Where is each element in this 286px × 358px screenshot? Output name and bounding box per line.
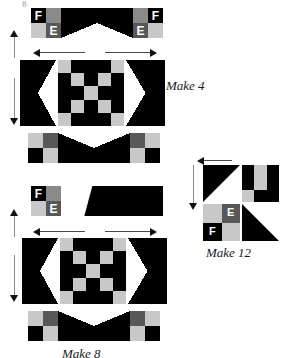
flying-geese-left xyxy=(126,60,165,126)
patch-light-gray xyxy=(203,204,222,223)
checker-cell xyxy=(111,113,124,126)
patch-dark-gray xyxy=(43,133,58,148)
checker-cell xyxy=(98,100,111,113)
nine-patch-cell xyxy=(254,177,266,189)
patch-light-gray xyxy=(148,23,163,38)
patch-medium-gray xyxy=(133,8,148,23)
checker-cell xyxy=(100,278,113,291)
patch-light-gray xyxy=(43,148,58,163)
patch-light-gray xyxy=(43,326,58,341)
half-square-triangle xyxy=(203,165,240,202)
patch-light-gray xyxy=(130,148,145,163)
block-make-8: F E xyxy=(0,183,180,358)
make8-center-row xyxy=(22,238,167,304)
make4-top-sashing-strip: F E F E xyxy=(31,8,163,38)
checker-cell xyxy=(60,238,73,251)
patch-black xyxy=(145,148,160,163)
patch-light-gray xyxy=(28,311,43,326)
checker-cell xyxy=(111,60,124,73)
make4-bottom-sashing-strip xyxy=(28,133,160,163)
patch-light-gray xyxy=(31,201,46,216)
checker-cell xyxy=(58,60,71,73)
checker-cell xyxy=(60,291,73,304)
flying-geese-left xyxy=(128,238,167,304)
checker-cell xyxy=(113,291,126,304)
patch-light-gray xyxy=(130,326,145,341)
caption-make-4: Make 4 xyxy=(166,78,205,94)
patch-light-gray xyxy=(145,311,160,326)
flying-geese-up xyxy=(58,311,130,341)
checkerboard-5x5 xyxy=(58,60,124,126)
patch-black xyxy=(28,148,43,163)
label-f: F xyxy=(203,226,222,237)
checkerboard-5x5 xyxy=(60,238,126,304)
checker-cell xyxy=(71,73,84,86)
make8-bottom-sashing-strip xyxy=(28,311,160,341)
checker-cell xyxy=(86,264,99,277)
make8-top-sashing-strip: F E xyxy=(31,186,163,216)
half-square-triangle xyxy=(242,204,279,241)
checker-cell xyxy=(73,278,86,291)
checker-cell xyxy=(98,73,111,86)
flying-geese-right xyxy=(20,60,56,126)
patch-light-gray xyxy=(28,133,43,148)
patch-light-gray xyxy=(222,223,241,242)
flying-geese-down xyxy=(61,8,133,38)
checker-cell xyxy=(113,238,126,251)
nine-patch xyxy=(242,165,279,202)
label-e: E xyxy=(46,25,61,37)
label-e: E xyxy=(222,207,241,218)
checker-cell xyxy=(100,251,113,264)
patch-black xyxy=(145,326,160,341)
checker-cell xyxy=(58,113,71,126)
label-f: F xyxy=(148,10,163,22)
caption-make-12: Make 12 xyxy=(206,245,251,261)
nine-patch-cell xyxy=(254,165,266,177)
block-make-12: E F Make 12 xyxy=(180,155,286,265)
patch-dark-gray xyxy=(43,311,58,326)
flying-geese-right xyxy=(22,238,58,304)
make4-center-row xyxy=(20,60,165,126)
patch-light-gray xyxy=(31,23,46,38)
checker-cell xyxy=(73,251,86,264)
long-diagonal-black xyxy=(61,186,163,216)
flying-geese-up xyxy=(58,133,130,163)
caption-make-8: Make 8 xyxy=(62,346,101,358)
patch-medium-gray xyxy=(46,8,61,23)
label-e: E xyxy=(46,203,61,215)
block-make-4: F E F E xyxy=(0,0,180,170)
label-f: F xyxy=(31,10,46,22)
nine-patch-cell xyxy=(242,190,254,202)
patch-black xyxy=(28,326,43,341)
patch-dark-gray xyxy=(130,311,145,326)
label-f: F xyxy=(31,188,46,200)
checker-cell xyxy=(84,86,97,99)
checker-cell xyxy=(71,100,84,113)
patch-light-gray xyxy=(145,133,160,148)
label-e: E xyxy=(133,25,148,37)
make12-unit-grid: E F xyxy=(203,165,279,241)
diagram-canvas: 8 F E F E xyxy=(0,0,286,358)
patch-dark-gray xyxy=(130,133,145,148)
patch-medium-gray xyxy=(46,186,61,201)
